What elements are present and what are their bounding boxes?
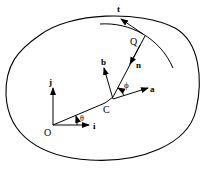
t-label: t bbox=[117, 4, 120, 14]
origin-label: O bbox=[44, 127, 51, 138]
i-label: i bbox=[93, 121, 96, 131]
n-label: n bbox=[136, 60, 141, 70]
theta-label: θ bbox=[80, 114, 84, 123]
b-axis-arrow bbox=[104, 68, 113, 99]
b-label: b bbox=[101, 57, 106, 67]
a-label: a bbox=[150, 84, 155, 94]
phi-label: ϕ bbox=[124, 80, 129, 90]
theta-arc bbox=[76, 116, 77, 125]
j-label: j bbox=[48, 77, 52, 87]
rigid-body-diagram: O i j θ C a b ϕ n Q t bbox=[0, 0, 204, 170]
center-label: C bbox=[103, 104, 110, 115]
contact-label: Q bbox=[130, 36, 138, 47]
cq-line bbox=[105, 97, 113, 103]
a-axis-arrow bbox=[113, 88, 148, 99]
oc-line bbox=[53, 103, 105, 125]
body-outline bbox=[6, 16, 199, 160]
